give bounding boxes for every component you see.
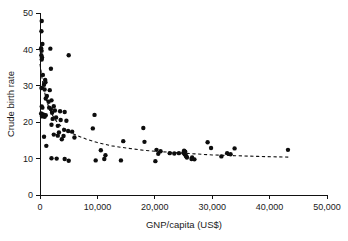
data-point: [99, 148, 103, 152]
data-point: [56, 124, 60, 128]
y-tick-label: 10: [23, 154, 33, 164]
data-point: [141, 126, 145, 130]
data-point: [177, 151, 181, 155]
data-point: [192, 157, 196, 161]
data-point: [142, 140, 146, 144]
data-point: [62, 128, 66, 132]
data-point: [50, 111, 54, 115]
x-tick-label: 20,000: [141, 202, 169, 212]
data-point: [52, 132, 56, 136]
data-point: [286, 148, 290, 152]
data-point: [232, 146, 236, 150]
data-point: [119, 158, 123, 162]
data-point: [54, 156, 58, 160]
data-point: [56, 133, 60, 137]
fitted-trend-line: [40, 64, 290, 157]
data-point: [70, 129, 74, 133]
data-point: [40, 105, 44, 109]
y-axis-title: Crude birth rate: [5, 71, 16, 137]
data-point: [72, 135, 76, 139]
data-point: [39, 29, 43, 33]
data-point: [40, 57, 44, 61]
data-point: [205, 140, 209, 144]
data-point: [49, 156, 53, 160]
data-point: [91, 126, 95, 130]
y-tick-label: 30: [23, 81, 33, 91]
data-point: [67, 53, 71, 57]
data-point: [64, 119, 68, 123]
data-point: [168, 151, 172, 155]
data-point: [58, 109, 62, 113]
data-point: [62, 157, 66, 161]
data-point: [50, 117, 54, 121]
data-point: [185, 155, 189, 159]
chart-figure: 01020304050 Crude birth rate 010,00020,0…: [0, 0, 348, 241]
data-point: [67, 159, 71, 163]
x-axis-group: 010,00020,00030,00040,00050,000 GNP/capi…: [37, 195, 340, 230]
x-tick-label: 0: [37, 202, 42, 212]
y-axis-ticks: 01020304050: [23, 8, 40, 200]
data-point: [66, 129, 70, 133]
data-point: [219, 154, 223, 158]
scatter-plot-svg: 01020304050 Crude birth rate 010,00020,0…: [0, 0, 348, 241]
data-point: [41, 73, 45, 77]
data-point: [49, 66, 53, 70]
data-point: [46, 100, 50, 104]
data-point: [48, 88, 52, 92]
x-tick-label: 40,000: [256, 202, 284, 212]
y-tick-label: 0: [28, 190, 33, 200]
data-point: [154, 148, 158, 152]
trend-line-group: [40, 64, 290, 157]
data-point: [102, 157, 106, 161]
data-point: [121, 139, 125, 143]
data-point: [40, 19, 44, 23]
data-point: [228, 152, 232, 156]
data-point: [209, 146, 213, 150]
data-point: [60, 137, 64, 141]
data-points-group: [39, 19, 290, 164]
data-point: [42, 115, 46, 119]
data-point: [49, 123, 53, 127]
data-point: [39, 49, 43, 53]
x-tick-label: 10,000: [84, 202, 112, 212]
data-point: [153, 159, 157, 163]
data-point: [42, 135, 46, 139]
data-point: [156, 152, 160, 156]
data-point: [48, 46, 52, 50]
data-point: [172, 151, 176, 155]
y-tick-label: 50: [23, 8, 33, 18]
data-point: [93, 158, 97, 162]
data-point: [40, 42, 44, 46]
y-tick-label: 40: [23, 45, 33, 55]
data-point: [42, 87, 46, 91]
x-axis-ticks: 010,00020,00030,00040,00050,000: [37, 195, 340, 212]
x-axis-title: GNP/capita (US$): [146, 219, 222, 230]
data-point: [44, 144, 48, 148]
y-tick-label: 20: [23, 117, 33, 127]
x-tick-label: 50,000: [313, 202, 341, 212]
data-point: [92, 113, 96, 117]
y-axis-group: 01020304050 Crude birth rate: [5, 8, 40, 200]
x-tick-label: 30,000: [198, 202, 226, 212]
data-point: [62, 110, 66, 114]
data-point: [58, 118, 62, 122]
